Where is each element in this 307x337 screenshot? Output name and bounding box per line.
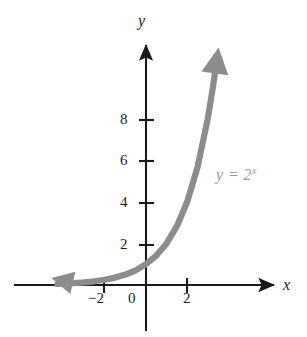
- x-tick-label-2: 2: [183, 291, 191, 306]
- graph-canvas: [0, 0, 307, 337]
- exponential-curve: [57, 65, 216, 284]
- curve-top-arrowhead: [202, 48, 229, 76]
- x-axis-label: x: [283, 277, 290, 293]
- exponential-function-graph: y x 8 6 4 2 −2 0 2 y = 2x: [0, 0, 307, 337]
- y-tick-label-2: 2: [120, 237, 128, 252]
- origin-label: 0: [128, 291, 136, 306]
- curve-equation-label: y = 2x: [216, 166, 257, 183]
- x-tick-label-negative-2: −2: [88, 291, 104, 306]
- y-tick-label-4: 4: [120, 195, 128, 210]
- y-tick-label-6: 6: [120, 153, 128, 168]
- y-axis-label: y: [138, 13, 145, 29]
- curve-equation-exponent: x: [252, 165, 257, 176]
- y-tick-label-8: 8: [120, 112, 128, 127]
- curve-equation-base: y = 2: [216, 166, 252, 183]
